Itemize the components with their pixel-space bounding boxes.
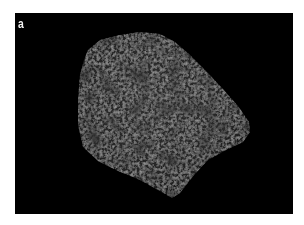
image-panel: a	[15, 13, 293, 214]
rock-specimen	[15, 13, 293, 214]
rock-shadow-texture	[78, 32, 250, 198]
